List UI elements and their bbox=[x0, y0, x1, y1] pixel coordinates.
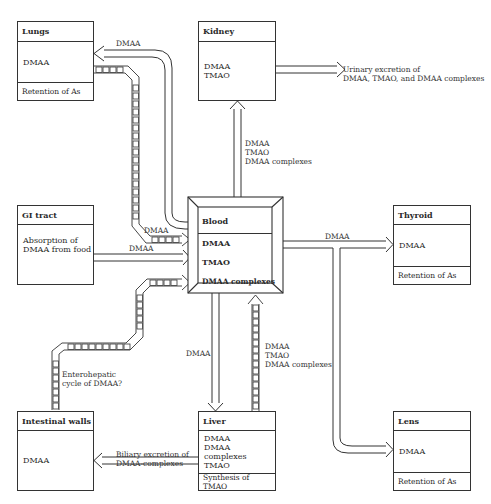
node-title: GI tract bbox=[18, 206, 93, 225]
content-line: DMAA bbox=[198, 234, 272, 253]
node-title: Lens bbox=[394, 412, 470, 431]
arrow-blood-to-lens bbox=[333, 248, 393, 457]
node-content: Absorption of DMAA from food bbox=[18, 225, 93, 265]
label-lungs-out: DMAA bbox=[116, 39, 141, 48]
label-line: DMAA-complexes bbox=[116, 459, 189, 468]
node-title: Kidney bbox=[199, 22, 275, 42]
label-line: cycle of DMAA? bbox=[62, 379, 122, 388]
node-title: Lungs bbox=[18, 22, 93, 42]
node-content: DMAA TMAO bbox=[199, 42, 275, 100]
node-gi-tract: GI tract Absorption of DMAA from food bbox=[17, 205, 94, 285]
content-line: DMAA bbox=[399, 241, 470, 250]
content-line: DMAA complexes bbox=[198, 272, 272, 291]
label-line: TMAO bbox=[245, 148, 312, 157]
label-urinary-excretion: Urinary excretion of DMAA, TMAO, and DMA… bbox=[343, 65, 484, 83]
arrow-blood-to-kidney bbox=[230, 101, 245, 197]
node-title: Intestinal walls bbox=[18, 412, 93, 431]
node-kidney: Kidney DMAA TMAO bbox=[198, 21, 276, 101]
content-line: TMAO bbox=[204, 71, 275, 80]
node-footer: Retention of As bbox=[394, 472, 470, 490]
content-line: DMAA complexes bbox=[204, 443, 275, 461]
node-content: DMAA bbox=[18, 431, 93, 490]
label-line: Urinary excretion of bbox=[343, 65, 484, 74]
label-line: TMAO bbox=[265, 351, 332, 360]
label-kidney-in: DMAA TMAO DMAA complexes bbox=[245, 139, 312, 166]
node-content: DMAA bbox=[394, 431, 470, 472]
content-line: DMAA bbox=[23, 456, 93, 465]
node-footer: Retention of As bbox=[394, 266, 470, 284]
content-line: DMAA bbox=[204, 434, 275, 443]
label-enterohepatic: Enterohepatic cycle of DMAA? bbox=[62, 370, 122, 388]
content-line: TMAO bbox=[198, 253, 272, 272]
content-line: DMAA from food bbox=[23, 245, 93, 254]
label-liver-up: DMAA TMAO DMAA complexes bbox=[265, 342, 332, 369]
content-line: TMAO bbox=[204, 461, 275, 470]
label-lungs-in: DMAA bbox=[144, 226, 169, 235]
content-line: DMAA bbox=[399, 447, 470, 456]
node-blood: Blood DMAA TMAO DMAA complexes bbox=[198, 207, 272, 283]
node-liver: Liver DMAA DMAA complexes TMAO Synthesis… bbox=[198, 411, 276, 491]
label-line: Biliary excretion of bbox=[116, 450, 189, 459]
arrow-lungs-to-blood bbox=[94, 66, 190, 246]
node-lungs: Lungs DMAA Retention of As bbox=[17, 21, 94, 101]
label-line: DMAA, TMAO, and DMAA complexes bbox=[343, 74, 484, 83]
node-content: DMAA DMAA complexes TMAO bbox=[199, 431, 275, 473]
node-lens: Lens DMAA Retention of As bbox=[393, 411, 471, 491]
label-liver-down: DMAA bbox=[186, 349, 211, 358]
label-line: Enterohepatic bbox=[62, 370, 122, 379]
node-footer: Synthesis of TMAO bbox=[199, 473, 275, 490]
node-thyroid: Thyroid DMAA Retention of As bbox=[393, 205, 471, 285]
label-thyroid-out: DMAA bbox=[325, 232, 350, 241]
label-gi-in: DMAA bbox=[129, 244, 154, 253]
arrow-intestinal-to-blood bbox=[52, 275, 190, 410]
content-line: Absorption of bbox=[23, 236, 93, 245]
node-title: Liver bbox=[199, 412, 275, 431]
label-line: DMAA bbox=[245, 139, 312, 148]
content-line: DMAA bbox=[204, 62, 275, 71]
arrow-kidney-to-urine bbox=[276, 62, 345, 77]
node-footer: Retention of As bbox=[18, 82, 93, 100]
content-line: DMAA bbox=[23, 58, 93, 67]
label-biliary-excretion: Biliary excretion of DMAA-complexes bbox=[116, 450, 189, 468]
node-title: Blood bbox=[198, 207, 272, 234]
label-line: DMAA complexes bbox=[265, 360, 332, 369]
node-content: DMAA bbox=[18, 42, 93, 82]
node-intestinal-walls: Intestinal walls DMAA bbox=[17, 411, 94, 491]
node-title: Thyroid bbox=[394, 206, 470, 225]
node-content: DMAA bbox=[394, 225, 470, 266]
label-line: DMAA bbox=[265, 342, 332, 351]
label-line: DMAA complexes bbox=[245, 157, 312, 166]
